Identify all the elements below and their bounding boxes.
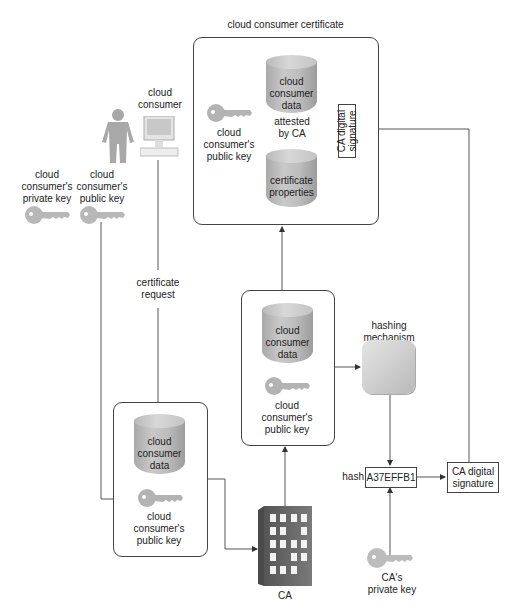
key-icon bbox=[206, 103, 252, 123]
person-icon bbox=[100, 108, 136, 164]
middle-public-key-icon bbox=[264, 376, 310, 396]
hash-label: hash bbox=[340, 471, 364, 483]
private-key-label: cloud consumer's private key bbox=[16, 169, 78, 205]
request-public-key-icon bbox=[137, 488, 183, 508]
ca-private-key-icon bbox=[367, 547, 413, 569]
certificate-title: cloud consumer certificate bbox=[193, 19, 378, 31]
middle-public-key-label: cloud consumer's public key bbox=[254, 400, 320, 436]
computer-icon bbox=[140, 116, 180, 160]
ca-label: CA bbox=[270, 590, 300, 602]
hash-value-box: A37EFFB1 bbox=[365, 467, 417, 488]
ca-building-icon bbox=[258, 506, 314, 586]
ca-private-key-label: CA's private key bbox=[365, 572, 419, 596]
certificate-public-key-label: cloud consumer's public key bbox=[196, 127, 262, 163]
attested-by-ca-label: attested by CA bbox=[262, 116, 322, 140]
ca-digital-signature-box: CA digital signature bbox=[447, 462, 499, 493]
request-data-cylinder: cloud consumer data bbox=[134, 414, 185, 474]
public-key-label: cloud consumer's public key bbox=[72, 169, 132, 205]
cloud-consumer-label: cloud consumer bbox=[132, 87, 188, 111]
request-public-key-label: cloud consumer's public key bbox=[126, 511, 192, 547]
private-key-icon bbox=[24, 205, 70, 225]
certificate-signature-box: CA digital signature bbox=[338, 104, 356, 158]
certificate-properties-cylinder: certificate properties bbox=[266, 149, 317, 207]
certificate-request-label: certificate request bbox=[126, 277, 190, 301]
certificate-data-cylinder: cloud consumer data bbox=[266, 55, 317, 113]
public-key-icon bbox=[79, 205, 125, 225]
middle-data-cylinder: cloud consumer data bbox=[262, 303, 313, 363]
hashing-mechanism-icon bbox=[362, 340, 415, 394]
